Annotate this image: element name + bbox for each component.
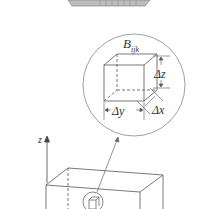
- pointer-arrow: [97, 137, 119, 192]
- dy-label: Δy: [112, 105, 124, 117]
- subbox-label: Bijk: [123, 37, 139, 54]
- z-axis-label: z: [38, 135, 42, 145]
- partitioned-box-fragment: [68, 0, 150, 6]
- dx-label: Δx: [152, 104, 164, 116]
- subbox-letter: B: [123, 36, 131, 51]
- subbox-cube: [104, 54, 157, 101]
- z-axis: [45, 136, 50, 183]
- diagram-canvas: [0, 0, 200, 209]
- dz-label: Δz: [154, 68, 166, 80]
- large-box: [46, 168, 163, 209]
- small-magnifier: [83, 192, 103, 209]
- subbox-subscript: ijk: [131, 45, 139, 54]
